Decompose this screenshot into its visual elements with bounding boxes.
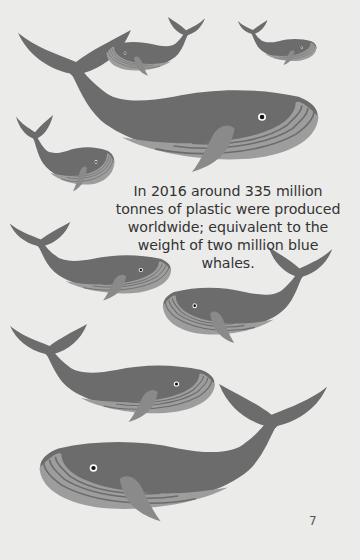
whale-illustration-large-bottom <box>38 384 330 524</box>
whale-illustration-small-1 <box>106 17 206 77</box>
whale-illustration-left <box>15 115 115 193</box>
whale-illustration-small-2 <box>237 20 317 66</box>
page-number: 7 <box>309 514 317 528</box>
caption-text: In 2016 around 335 million tonnes of pla… <box>112 182 344 272</box>
